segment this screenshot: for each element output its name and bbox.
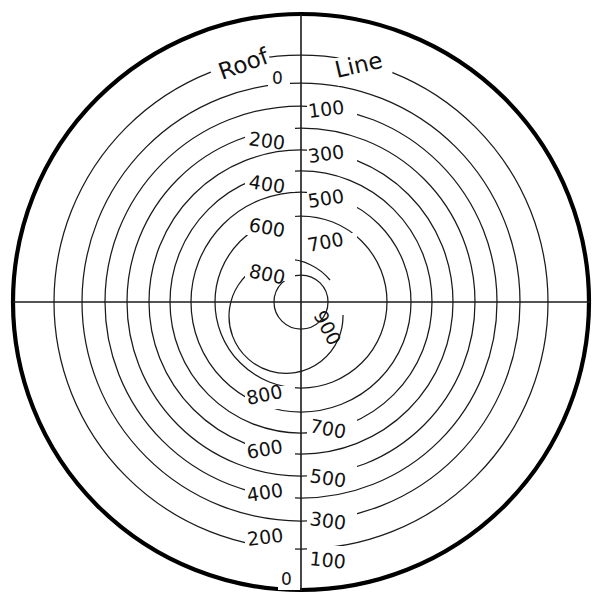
tick-label-top-200: 200 — [247, 127, 286, 154]
tick-label-bottom-300: 300 — [308, 507, 347, 534]
tick-label-top-400: 400 — [247, 170, 286, 197]
concentric-circle-nomogram: Roof Line 0 100 200 300 400 500 600 700 … — [0, 0, 604, 607]
tick-label-top-100: 100 — [307, 96, 346, 122]
chart-canvas: Roof Line 0 100 200 300 400 500 600 700 … — [0, 0, 604, 607]
tick-label-bottom-100: 100 — [309, 547, 347, 573]
tick-label-bottom-500: 500 — [308, 464, 347, 491]
line-label: Line — [332, 47, 385, 83]
tick-label-bottom-0: 0 — [281, 569, 292, 589]
tick-label-900: 900 — [309, 307, 345, 349]
tick-label-bottom-200: 200 — [246, 524, 285, 550]
tick-label-top-0: 0 — [272, 68, 283, 88]
